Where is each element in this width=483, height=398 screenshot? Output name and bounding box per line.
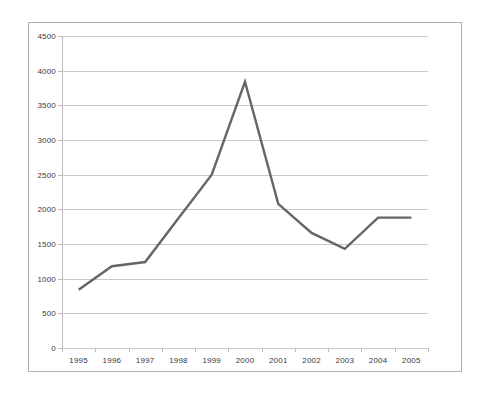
x-tick-mark <box>62 348 63 352</box>
x-tick-label: 2002 <box>302 356 321 365</box>
y-tick-mark <box>58 36 62 37</box>
x-tick-mark <box>361 348 362 352</box>
x-tick-mark <box>195 348 196 352</box>
y-tick-label: 3500 <box>37 101 56 110</box>
y-tick-mark <box>58 175 62 176</box>
x-tick-label: 1999 <box>202 356 221 365</box>
x-tick-mark <box>129 348 130 352</box>
y-tick-label: 0 <box>51 344 56 353</box>
gridline-y <box>62 348 428 349</box>
y-axis-tick-labels: 050010001500200025003000350040004500 <box>29 36 56 348</box>
y-tick-label: 4000 <box>37 66 56 75</box>
y-tick-label: 2000 <box>37 205 56 214</box>
x-tick-mark <box>395 348 396 352</box>
x-tick-mark <box>228 348 229 352</box>
x-tick-label: 1996 <box>103 356 122 365</box>
y-tick-mark <box>58 313 62 314</box>
y-tick-mark <box>58 140 62 141</box>
x-tick-label: 2000 <box>236 356 255 365</box>
x-tick-mark <box>162 348 163 352</box>
y-tick-mark <box>58 209 62 210</box>
y-tick-label: 1000 <box>37 274 56 283</box>
x-tick-mark <box>295 348 296 352</box>
x-tick-label: 1997 <box>136 356 155 365</box>
x-tick-label: 2004 <box>369 356 388 365</box>
series-line-path <box>79 82 412 290</box>
y-tick-label: 2500 <box>37 170 56 179</box>
y-tick-label: 3000 <box>37 136 56 145</box>
x-tick-label: 2001 <box>269 356 288 365</box>
y-tick-label: 4500 <box>37 32 56 41</box>
x-tick-mark <box>328 348 329 352</box>
y-tick-mark <box>58 244 62 245</box>
y-tick-mark <box>58 71 62 72</box>
x-tick-mark <box>262 348 263 352</box>
series-line-chart <box>62 36 428 348</box>
x-tick-mark <box>95 348 96 352</box>
y-tick-mark <box>58 279 62 280</box>
x-tick-label: 1998 <box>169 356 188 365</box>
y-tick-label: 500 <box>42 309 56 318</box>
chart-figure: 050010001500200025003000350040004500 199… <box>28 22 462 372</box>
x-tick-label: 2003 <box>336 356 355 365</box>
y-tick-mark <box>58 105 62 106</box>
x-tick-label: 1995 <box>69 356 88 365</box>
y-tick-label: 1500 <box>37 240 56 249</box>
x-tick-label: 2005 <box>402 356 421 365</box>
x-tick-mark <box>428 348 429 352</box>
